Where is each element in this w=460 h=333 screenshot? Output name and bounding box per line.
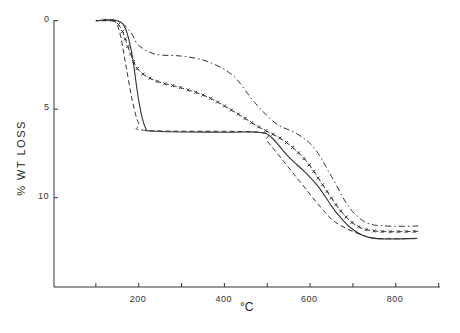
cross-marker [345,215,348,218]
x-tick-label: 600 [301,294,318,304]
x-axis-label: °C [240,300,253,314]
cross-marker [285,141,288,144]
cross-marker [223,104,226,107]
cross-marker [312,170,315,173]
cross-marker [250,121,253,124]
x-tick-label: 800 [387,294,404,304]
curves [96,19,422,239]
cross-marker [243,117,246,120]
cross-marker [326,190,329,193]
cross-marker [230,109,233,112]
cross-marker [334,203,337,206]
cross-marker [321,183,324,186]
cross-marker [237,113,240,116]
cross-marker [339,209,342,212]
cross-marker [257,125,260,128]
cross-marker [278,137,281,140]
curve-solid [96,20,417,239]
y-tick-label: 0 [44,14,50,24]
cross-marker [216,100,219,103]
y-tick-label: 5 [44,102,50,112]
cross-marker [330,197,333,200]
axes [54,20,440,287]
cross-marker [291,146,294,149]
cross-marker [297,151,300,154]
curve-dash-dot [96,20,422,226]
x-tick-label: 200 [130,294,147,304]
y-tick-label: 10 [38,191,49,201]
x-tick-label: 400 [215,294,232,304]
tga-chart [0,0,460,333]
cross-marker [303,157,306,160]
cross-marker [350,221,353,224]
cross-marker [136,67,139,70]
cross-marker [141,73,144,76]
curve-dashed [96,20,417,239]
cross-marker [308,163,311,166]
y-axis-label: % WT LOSS [15,113,27,203]
cross-marker [317,177,320,180]
cross-marker [117,23,120,26]
